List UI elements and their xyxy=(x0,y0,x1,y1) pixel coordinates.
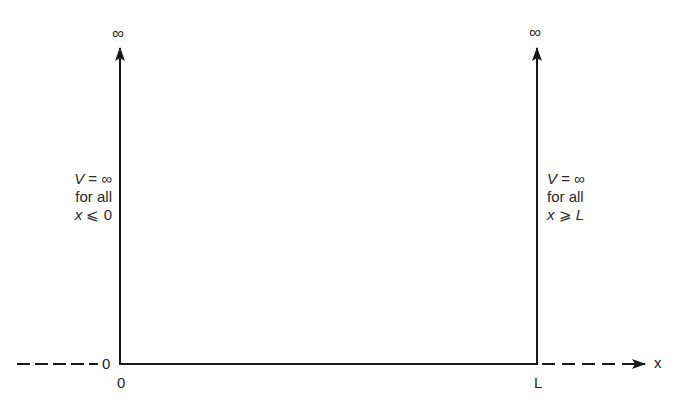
left-potential-eq: V = ∞ xyxy=(40,170,112,188)
right-condition: for all xyxy=(547,188,627,206)
left-range: x ⩽ 0 xyxy=(40,206,112,224)
right-potential-eq: V = ∞ xyxy=(547,170,627,188)
well-floor-zero-label: 0 xyxy=(102,355,110,373)
axis-label-x: x xyxy=(654,354,662,372)
tick-label-origin: 0 xyxy=(117,374,125,392)
right-range: x ⩾ L xyxy=(547,206,627,224)
right-potential-note: V = ∞ for all x ⩾ L xyxy=(547,170,627,224)
tick-label-L: L xyxy=(534,374,542,392)
left-condition: for all xyxy=(40,188,112,206)
left-potential-note: V = ∞ for all x ⩽ 0 xyxy=(40,170,112,224)
left-wall-infinity-label: ∞ xyxy=(112,25,124,42)
right-wall-infinity-label: ∞ xyxy=(529,24,541,41)
